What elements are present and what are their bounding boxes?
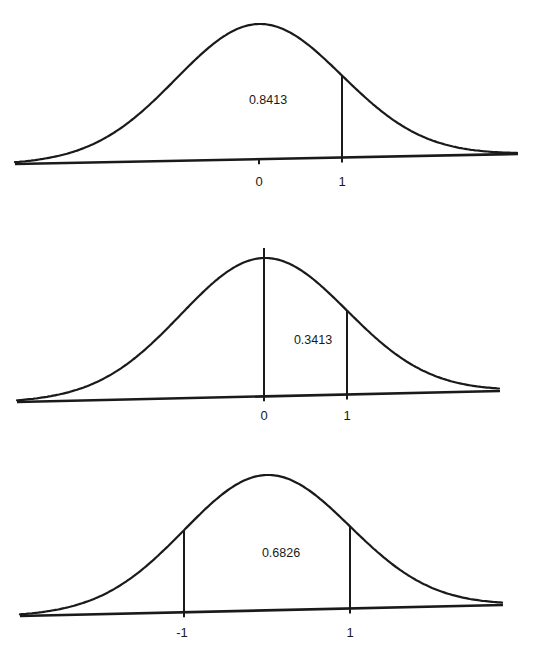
tick-label: -1 [176, 625, 188, 640]
normal-curve [17, 258, 499, 400]
tick-label: 0 [260, 408, 267, 423]
tick-labels: -11 [176, 625, 353, 640]
tick-labels: 01 [255, 174, 345, 189]
area-label: 0.8413 [249, 93, 287, 107]
normal-curve [20, 475, 502, 614]
tick-label: 1 [338, 174, 345, 189]
tick-label: 1 [343, 408, 350, 423]
tick-label: 0 [255, 174, 262, 189]
panel-p-minus1-to-1: 0.6826 -11 [20, 475, 503, 640]
area-label: 0.3413 [294, 333, 332, 347]
normal-distribution-diagrams: 0.8413 01 0.3413 01 0.6826 -11 [0, 0, 545, 659]
area-label: 0.6826 [262, 546, 300, 560]
tick-labels: 01 [260, 408, 350, 423]
x-axis [20, 605, 503, 616]
boundary-lines [264, 248, 347, 401]
panel-p-z-less-than-1: 0.8413 01 [15, 24, 518, 189]
boundary-lines [184, 526, 350, 617]
x-axis [17, 391, 500, 402]
x-axis [15, 154, 518, 164]
tick-label: 1 [346, 625, 353, 640]
panel-p-0-to-1: 0.3413 01 [17, 248, 500, 423]
